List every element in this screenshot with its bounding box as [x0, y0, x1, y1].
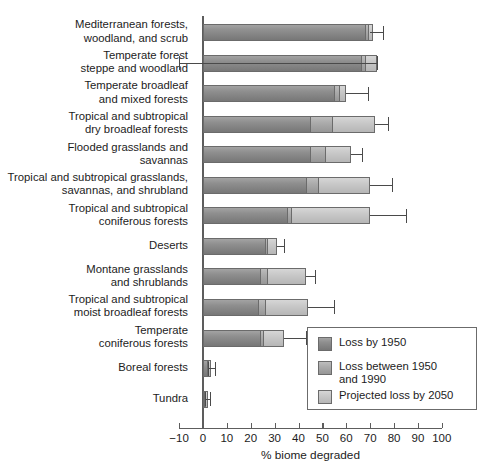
x-axis-line: [179, 428, 442, 429]
bar-segment-loss-1950-1990: [260, 268, 267, 285]
legend-item: Loss between 1950 and 1990: [318, 361, 437, 387]
bar-segment-loss-1950: [203, 299, 258, 316]
bar-segment-loss-1950-1990: [310, 146, 324, 163]
x-axis-tick: [227, 423, 228, 428]
bar-segment-projected-2050: [267, 238, 277, 255]
bar-segment-projected-2050: [339, 85, 346, 102]
bar-segment-loss-1950: [203, 116, 310, 133]
bar-row: [0, 24, 493, 41]
x-axis-tick: [179, 423, 180, 428]
error-bar-cap: [334, 300, 335, 314]
error-bar: [308, 307, 334, 308]
bar-row: [0, 85, 493, 102]
legend-label: Loss between 1950 and 1990: [339, 360, 437, 387]
error-bar-cap: [406, 209, 407, 223]
legend-item: Projected loss by 2050: [318, 390, 453, 404]
error-bar: [370, 215, 406, 216]
legend-swatch-icon: [318, 361, 332, 375]
legend-swatch-icon: [318, 337, 332, 351]
x-axis-tick: [370, 423, 371, 428]
bar-segment-projected-2050: [318, 177, 371, 194]
bar-row: [0, 146, 493, 163]
error-bar-cap: [210, 392, 211, 406]
x-axis-tick: [418, 423, 419, 428]
x-axis-tick-label: 100: [422, 432, 462, 444]
error-bar: [370, 185, 391, 186]
error-bar-cap: [383, 26, 384, 40]
legend-swatch-icon: [318, 390, 332, 404]
x-axis-tick: [322, 423, 323, 428]
bar-segment-loss-1950: [203, 85, 334, 102]
error-bar: [346, 93, 367, 94]
error-bar: [179, 63, 377, 64]
bar-row: [0, 116, 493, 133]
error-bar: [375, 124, 388, 125]
bar-segment-loss-1950: [203, 268, 260, 285]
error-bar-cap: [377, 56, 378, 70]
bar-segment-projected-2050: [263, 330, 284, 347]
bar-segment-loss-1950-1990: [258, 299, 265, 316]
error-bar-cap: [284, 239, 285, 253]
error-bar: [370, 32, 383, 33]
bar-segment-projected-2050: [291, 207, 370, 224]
bar-segment-projected-2050: [325, 146, 351, 163]
bar-segment-loss-1950: [203, 238, 265, 255]
bar-row: [0, 177, 493, 194]
bar-segment-loss-1950: [203, 330, 260, 347]
bar-segment-loss-1950: [203, 146, 310, 163]
error-bar: [306, 276, 316, 277]
bar-row: [0, 268, 493, 285]
error-bar-cap: [205, 392, 206, 406]
x-axis-tick: [394, 423, 395, 428]
legend-label: Projected loss by 2050: [339, 389, 453, 402]
error-bar-cap: [388, 117, 389, 131]
bar-row: [0, 207, 493, 224]
bar-segment-projected-2050: [267, 268, 305, 285]
error-bar-cap: [215, 362, 216, 376]
x-axis-tick: [346, 423, 347, 428]
bar-segment-loss-1950-1990: [310, 116, 331, 133]
bar-segment-projected-2050: [265, 299, 308, 316]
biome-degradation-chart: Mediterranean forests, woodland, and scr…: [0, 0, 493, 467]
legend-item: Loss by 1950: [318, 337, 406, 351]
bar-row: [0, 238, 493, 255]
error-bar-cap: [368, 87, 369, 101]
error-bar: [277, 246, 284, 247]
bar-segment-loss-1950: [203, 177, 306, 194]
bar-segment-loss-1950: [203, 24, 365, 41]
error-bar: [284, 338, 305, 339]
error-bar-cap: [392, 178, 393, 192]
error-bar-cap: [315, 270, 316, 284]
bar-row: [0, 299, 493, 316]
x-axis-tick: [251, 423, 252, 428]
legend-label: Loss by 1950: [339, 336, 406, 349]
x-axis-tick: [299, 423, 300, 428]
legend: Loss by 1950Loss between 1950 and 1990Pr…: [307, 327, 477, 410]
x-axis-title: % biome degraded: [160, 448, 460, 462]
bar-segment-loss-1950: [203, 207, 287, 224]
error-bar-cap: [362, 148, 363, 162]
bar-segment-projected-2050: [332, 116, 375, 133]
error-bar-cap: [208, 362, 209, 376]
error-bar: [351, 154, 362, 155]
x-axis-tick: [203, 423, 204, 428]
error-bar-cap: [179, 56, 180, 70]
bar-row: [0, 55, 493, 72]
bar-segment-loss-1950-1990: [306, 177, 318, 194]
x-axis-tick: [442, 423, 443, 428]
x-axis-tick: [275, 423, 276, 428]
